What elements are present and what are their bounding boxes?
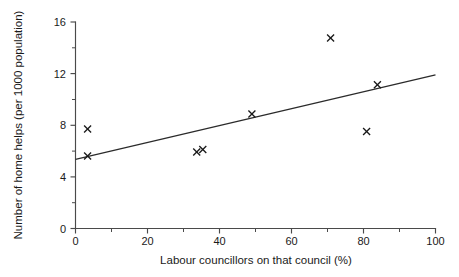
x-tick-label-20: 20: [141, 235, 153, 247]
y-tick-label-0: 0: [60, 223, 66, 235]
x-tick-label-80: 80: [357, 235, 369, 247]
x-tick-label-100: 100: [426, 235, 444, 247]
data-point-marker: [363, 128, 370, 135]
x-axis-tick-labels: 0 20 40 60 80 100: [72, 235, 444, 247]
y-axis-tick-labels: 0 4 8 12 16: [54, 16, 66, 235]
plot-canvas: 0 4 8 12 16 0 20 40 60 80 100: [0, 0, 459, 277]
x-tick-label-60: 60: [285, 235, 297, 247]
data-point-marker: [327, 34, 334, 41]
y-axis-title: Number of home helps (per 1000 populatio…: [12, 10, 24, 239]
data-point-marker: [193, 149, 200, 156]
x-tick-label-40: 40: [213, 235, 225, 247]
axes-group: [75, 22, 436, 229]
x-axis-title: Labour councillors on that council (%): [160, 254, 352, 266]
x-tick-label-0: 0: [72, 235, 78, 247]
scatter-plot-figure: 0 4 8 12 16 0 20 40 60 80 100: [0, 0, 459, 277]
data-point-marker: [248, 111, 255, 118]
data-point-marker: [374, 81, 381, 88]
data-point-marker: [199, 146, 206, 153]
y-axis-major-ticks: [71, 22, 76, 229]
data-point-marker: [84, 125, 91, 132]
y-tick-label-4: 4: [60, 171, 66, 183]
data-points-group: [84, 34, 381, 159]
y-tick-label-12: 12: [54, 68, 66, 80]
y-tick-label-16: 16: [54, 16, 66, 28]
y-tick-label-8: 8: [60, 119, 66, 131]
